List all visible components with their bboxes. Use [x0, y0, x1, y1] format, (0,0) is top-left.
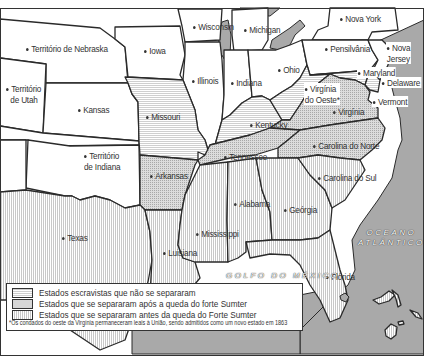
label-atlantic-ocean: OCEANOATLÂNTICO: [358, 228, 424, 248]
label-vermont: Vermont: [372, 96, 408, 107]
island-small: [398, 321, 404, 325]
label-alabama: Alabama: [234, 198, 270, 209]
label-mississippi: Mississippi: [196, 228, 239, 239]
label-nova-york: Nova York: [340, 13, 381, 24]
label-wisconsin: Wisconsin: [193, 21, 234, 32]
label-north-carolina: Carolina do Norte: [313, 140, 379, 151]
label-nova-jersey: NovaJersey: [386, 42, 411, 64]
legend-label: Estados escravistas que não se separaram: [39, 288, 196, 298]
legend-item-seceded-after: Estados que se separaram após a queda do…: [12, 299, 281, 309]
label-nebraska: Território de Nebraska: [26, 43, 108, 54]
label-texas: Texas: [62, 232, 88, 243]
label-georgia: Geórgia: [284, 204, 317, 215]
label-virginia: Virgínia: [333, 106, 364, 117]
label-tennessee: Tennessee: [224, 151, 267, 162]
territory-southwest: [0, 140, 26, 192]
label-indiana-territory: Territóriode Indiana: [84, 150, 120, 172]
label-kansas: Kansas: [78, 104, 109, 115]
label-michigan: Michigan: [244, 24, 280, 35]
label-missouri: Missouri: [146, 111, 180, 122]
label-ohio: Ohio: [278, 64, 300, 75]
label-pensilvania: Pensilvânia: [325, 43, 370, 54]
label-delaware: Delaware: [381, 77, 421, 88]
legend-label: Estados que se separaram após a queda do…: [39, 299, 247, 309]
label-luisiana: Luisiana: [163, 247, 197, 258]
legend-item-border-states: Estados escravistas que não se separaram: [12, 288, 221, 298]
label-west-virginia: Virgíniado Oeste*: [304, 83, 341, 105]
legend-footnote: *Os condados do oeste da Virgínia perman…: [9, 319, 287, 326]
map-legend: Estados escravistas que não se separaram…: [6, 283, 303, 331]
label-gulf-of-mexico: GOLFO DO MÉXICO: [226, 271, 340, 280]
label-indiana: Indiana: [231, 77, 262, 88]
label-south-carolina: Carolina do Sul: [318, 172, 376, 183]
label-iowa: Iowa: [144, 45, 166, 56]
legend-swatch-dotted: [12, 299, 33, 309]
label-utah: Territóriode Utah: [6, 83, 41, 105]
label-kentucky: Kentucky: [250, 119, 287, 130]
legend-swatch-horizontal-lines: [12, 288, 33, 298]
label-arkansas: Arkansas: [150, 170, 188, 181]
label-illinois: Illinois: [192, 75, 218, 86]
